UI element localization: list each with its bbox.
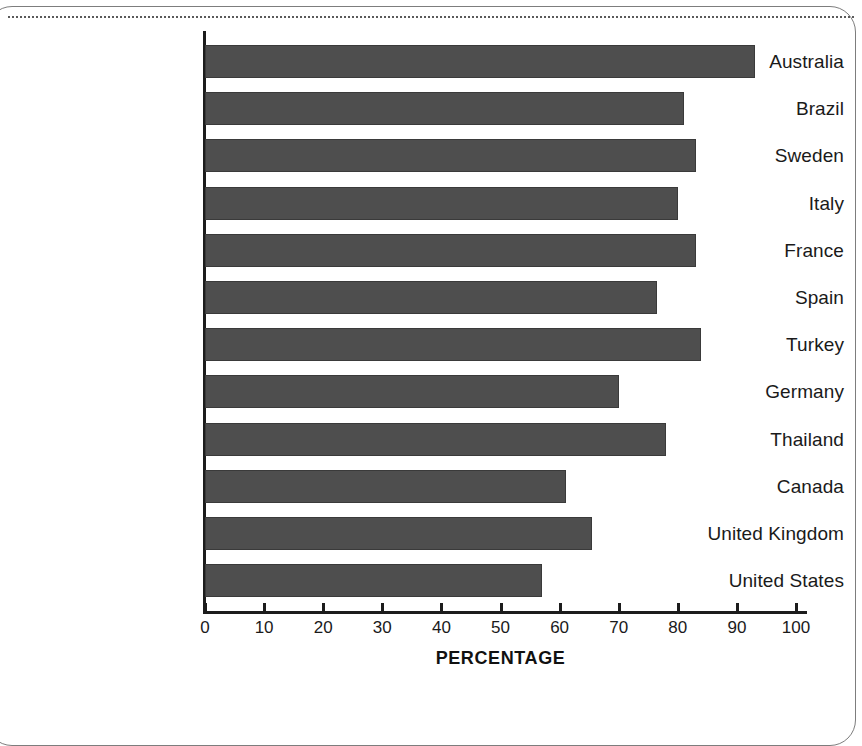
- bar-united-kingdom: [205, 517, 592, 550]
- x-tick-mark-70: [618, 603, 621, 614]
- x-tick-mark-60: [559, 603, 562, 614]
- bar-row: [205, 281, 657, 314]
- bar-row: [205, 423, 666, 456]
- bar-canada: [205, 470, 566, 503]
- bar-thailand: [205, 423, 666, 456]
- bar-brazil: [205, 92, 684, 125]
- bar-turkey: [205, 328, 701, 361]
- x-tick-mark-90: [736, 603, 739, 614]
- x-tick-label-60: 60: [530, 618, 590, 638]
- x-tick-label-20: 20: [293, 618, 353, 638]
- category-label-united-kingdom: United Kingdom: [667, 517, 862, 550]
- bar-sweden: [205, 139, 696, 172]
- bar-united-states: [205, 564, 542, 597]
- x-tick-label-40: 40: [411, 618, 471, 638]
- bar-row: [205, 470, 566, 503]
- bar-italy: [205, 187, 678, 220]
- category-label-united-states: United States: [667, 564, 862, 597]
- x-tick-mark-50: [500, 603, 503, 614]
- category-label-sweden: Sweden: [667, 139, 862, 172]
- x-tick-mark-30: [381, 603, 384, 614]
- x-tick-mark-0: [204, 603, 207, 614]
- x-axis-title: PERCENTAGE: [205, 648, 796, 669]
- category-label-brazil: Brazil: [667, 92, 862, 125]
- bar-row: [205, 564, 542, 597]
- bar-row: [205, 139, 696, 172]
- x-tick-label-80: 80: [648, 618, 708, 638]
- category-label-australia: Australia: [667, 45, 862, 78]
- bar-row: [205, 234, 696, 267]
- category-label-germany: Germany: [667, 375, 862, 408]
- x-tick-label-90: 90: [707, 618, 767, 638]
- bar-row: [205, 375, 619, 408]
- bar-row: [205, 328, 701, 361]
- category-label-france: France: [667, 234, 862, 267]
- x-tick-mark-20: [322, 603, 325, 614]
- x-tick-mark-10: [263, 603, 266, 614]
- category-label-turkey: Turkey: [667, 328, 862, 361]
- bar-spain: [205, 281, 657, 314]
- x-tick-mark-40: [440, 603, 443, 614]
- x-tick-mark-100: [795, 603, 798, 614]
- bar-row: [205, 517, 592, 550]
- x-tick-mark-80: [677, 603, 680, 614]
- x-tick-label-30: 30: [352, 618, 412, 638]
- x-tick-label-70: 70: [589, 618, 649, 638]
- x-tick-label-10: 10: [234, 618, 294, 638]
- category-label-italy: Italy: [667, 187, 862, 220]
- bar-france: [205, 234, 696, 267]
- x-tick-label-0: 0: [175, 618, 235, 638]
- category-label-spain: Spain: [667, 281, 862, 314]
- category-label-canada: Canada: [667, 470, 862, 503]
- x-tick-label-100: 100: [766, 618, 826, 638]
- bar-germany: [205, 375, 619, 408]
- bar-row: [205, 187, 678, 220]
- bar-row: [205, 92, 684, 125]
- category-label-thailand: Thailand: [667, 423, 862, 456]
- x-tick-label-50: 50: [471, 618, 531, 638]
